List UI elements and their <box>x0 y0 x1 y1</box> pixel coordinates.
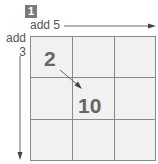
diagonal-arrow-icon <box>60 70 82 89</box>
diagonal-arrow-layer <box>0 0 158 164</box>
